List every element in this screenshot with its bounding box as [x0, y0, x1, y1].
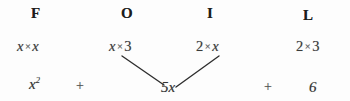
result-squared-term: x2: [29, 77, 40, 92]
header-letter-f: F: [31, 6, 40, 21]
term-last: 2×3: [296, 39, 319, 54]
connector-line-inner-to-middle: [176, 56, 219, 87]
term-last-operator: ×: [303, 41, 312, 52]
result-squared-exponent: 2: [36, 75, 40, 85]
term-first: x×x: [17, 39, 39, 54]
term-inner-operator: ×: [203, 41, 212, 52]
result-plus-sign-second: +: [264, 80, 272, 94]
connector-line-outer-to-middle: [122, 56, 164, 85]
header-letter-i: I: [207, 6, 213, 21]
term-inner-right: x: [212, 38, 218, 54]
term-outer: x×3: [109, 39, 132, 54]
foil-diagram-canvas: F O I L x×x x×3 2×x 2×3 x2 + 5x + 6: [0, 0, 350, 101]
result-squared-base: x: [29, 76, 36, 92]
result-plus-sign-first: +: [76, 79, 84, 93]
header-letter-o: O: [121, 6, 133, 21]
result-constant-term: 6: [309, 80, 317, 95]
header-letter-l: L: [303, 8, 313, 23]
term-inner: 2×x: [196, 39, 219, 54]
term-last-right: 3: [312, 38, 319, 54]
term-first-right: x: [32, 38, 38, 54]
term-outer-right: 3: [124, 38, 131, 54]
result-middle-term: 5x: [161, 80, 175, 95]
